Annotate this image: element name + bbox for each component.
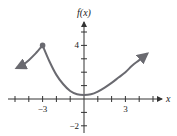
x-tick-label: 3 <box>123 104 128 114</box>
y-tick-label: −2 <box>69 121 79 131</box>
y-axis-label: f(x) <box>77 7 92 19</box>
curves <box>16 43 147 95</box>
x-axis-label: x <box>165 93 171 104</box>
closed-dot <box>40 43 46 49</box>
curve-right-branch <box>43 45 148 95</box>
y-tick-label: 4 <box>75 40 80 50</box>
x-tick-label: −3 <box>38 104 48 114</box>
axes: −334−2 <box>8 22 162 133</box>
function-graph: −334−2 x f(x) <box>0 0 177 136</box>
curve-left-branch <box>16 45 42 68</box>
